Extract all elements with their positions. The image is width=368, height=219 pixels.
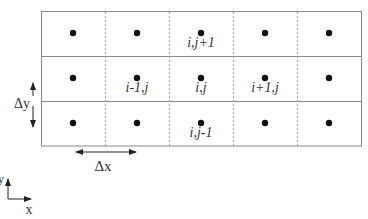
node-point xyxy=(262,120,268,126)
dy-label: Δy xyxy=(14,96,30,111)
node-point xyxy=(326,75,332,81)
dx-label: Δx xyxy=(94,158,112,174)
node-point xyxy=(262,30,268,36)
label-i-j: i,j xyxy=(195,80,206,95)
node-point xyxy=(326,30,332,36)
label-iplus1-j: i+1,j xyxy=(251,80,279,95)
node-point xyxy=(134,120,140,126)
label-i-jminus1: i,j-1 xyxy=(190,125,213,140)
coordinate-axes xyxy=(8,179,31,199)
grid-diagram: i,j+1 i-1,j i,j i+1,j i,j-1 Δy Δx y x xyxy=(0,0,368,219)
node-point xyxy=(70,75,76,81)
x-axis-label: x xyxy=(26,202,33,217)
node-point xyxy=(134,30,140,36)
node-point xyxy=(70,30,76,36)
label-i-jplus1: i,j+1 xyxy=(187,35,215,50)
y-axis-label: y xyxy=(0,172,4,186)
node-point xyxy=(70,120,76,126)
label-iminus1-j: i-1,j xyxy=(126,80,149,95)
node-point xyxy=(326,120,332,126)
